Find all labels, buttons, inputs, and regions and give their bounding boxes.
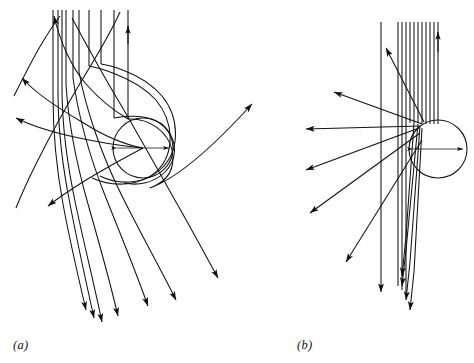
panel-b-incident-rays <box>398 22 438 124</box>
panel-label-b: (b) <box>297 338 312 353</box>
panel-a-incident-rays <box>53 10 128 119</box>
panel-a-exit-upper-right <box>128 104 252 188</box>
figure-root: (a) (b) <box>0 0 474 363</box>
panel-b-transmitted-down <box>402 123 422 310</box>
panel-label-a: (a) <box>13 338 28 353</box>
panel-b-group <box>306 22 467 310</box>
ray-diagram-canvas <box>0 0 474 363</box>
panel-a-group <box>14 10 252 322</box>
